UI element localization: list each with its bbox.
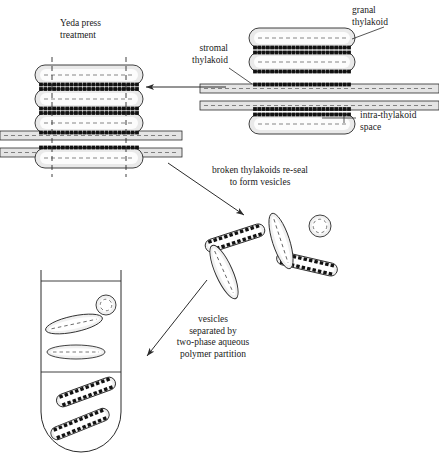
tube-stromal-vesicle-2 — [47, 345, 105, 359]
diagram-canvas: Yeda press treatment granal thylakoid st… — [0, 0, 439, 463]
granal-complex-row-3b — [253, 113, 351, 117]
stromal-vesicle-b — [204, 242, 243, 302]
label-granal-thylakoid: granal thylakoid — [352, 5, 388, 28]
stromal-vesicle-a — [264, 211, 298, 271]
granal-complex-row-2b — [253, 83, 351, 87]
pressed-disc-2 — [35, 89, 143, 109]
label-stromal-thylakoid: stromal thylakoid — [146, 43, 228, 66]
leader-stromal-thylakoid — [229, 68, 252, 84]
pressed-complex-row-2 — [39, 87, 139, 91]
stromal-vesicle-round — [309, 215, 331, 237]
granal-complex-row-3a — [253, 107, 351, 111]
granal-disc-top — [249, 28, 355, 48]
pressed-disc-4 — [35, 148, 143, 168]
granal-disc-bottom — [249, 114, 355, 134]
pressed-complex-row-3 — [39, 107, 139, 111]
pressed-complex-row-6 — [39, 146, 139, 150]
pressed-complex-row-4 — [39, 111, 139, 115]
granal-complex-row-2a — [253, 70, 351, 74]
granal-disc-second — [249, 52, 355, 72]
pressed-complex-row-5 — [39, 131, 139, 135]
free-vesicle-layer — [204, 211, 339, 302]
label-intra-thylakoid-space: intra-thylakoid space — [360, 110, 416, 133]
pressed-complex-row-1 — [39, 83, 139, 87]
pressed-disc-1 — [35, 65, 143, 85]
leader-granal-thylakoid — [352, 27, 384, 39]
label-yeda-press: Yeda press treatment — [60, 18, 101, 41]
label-partition: vesicles separated by two-phase aqueous … — [154, 314, 272, 360]
pressed-granum-stack — [0, 57, 182, 177]
diagram-svg — [0, 0, 439, 463]
granal-complex-row-1b — [253, 51, 351, 55]
granal-complex-row-1a — [253, 46, 351, 50]
pressed-disc-3 — [35, 113, 143, 133]
tube-stromal-round — [96, 295, 116, 315]
label-reseal: broken thylakoids re-seal to form vesicl… — [196, 165, 324, 188]
